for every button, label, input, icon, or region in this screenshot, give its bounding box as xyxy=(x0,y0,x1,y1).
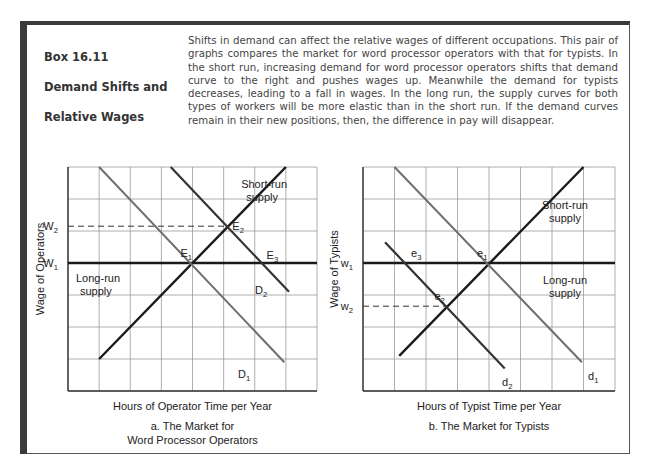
chart-caption: a. The Market for xyxy=(151,420,235,432)
charts-canvas: Short-runsupplyLong-runsupplyD1D2E1E2E3W… xyxy=(0,0,646,472)
equilibrium-label-e3: E3 xyxy=(267,249,279,264)
d2-curve-label: D2 xyxy=(255,284,267,299)
short-run-supply-curve-label-line2: supply xyxy=(549,212,581,224)
x-axis-label: Hours of Operator Time per Year xyxy=(113,400,272,412)
short-run-supply-curve-label: Short-run xyxy=(241,178,287,190)
equilibrium-label-e3: e3 xyxy=(411,247,421,262)
y-tick-label: w2 xyxy=(340,300,353,315)
long-run-supply-curve-label-line2: supply xyxy=(549,287,581,299)
chart-typists: Short-runsupplyLong-runsupplyd1d2e1e2e3w… xyxy=(328,167,615,432)
y-axis-label: Wage of Typists xyxy=(328,230,340,308)
x-axis-label: Hours of Typist Time per Year xyxy=(417,400,561,412)
equilibrium-label-e1: e1 xyxy=(477,247,487,262)
chart-caption-line2: Word Processor Operators xyxy=(127,434,258,446)
d1-curve-label: d1 xyxy=(588,370,598,385)
chart-operators: Short-runsupplyLong-runsupplyD1D2E1E2E3W… xyxy=(34,167,317,446)
short-run-supply-curve-label-line2: supply xyxy=(246,191,278,203)
d1-curve-label: D1 xyxy=(238,368,250,383)
short-run-supply-curve-label: Short-run xyxy=(542,199,588,211)
y-axis-label: Wage of Operators xyxy=(34,222,46,315)
short-run-supply-curve xyxy=(399,167,583,356)
long-run-supply-curve-label: Long-run xyxy=(543,274,587,286)
y-tick-label: w1 xyxy=(340,257,353,272)
chart-caption: b. The Market for Typists xyxy=(429,420,550,432)
d2-curve-label: d2 xyxy=(502,376,512,391)
long-run-supply-curve-label: Long-run xyxy=(76,272,120,284)
long-run-supply-curve-label-line2: supply xyxy=(80,285,112,297)
equilibrium-label-e2: e2 xyxy=(434,290,444,305)
